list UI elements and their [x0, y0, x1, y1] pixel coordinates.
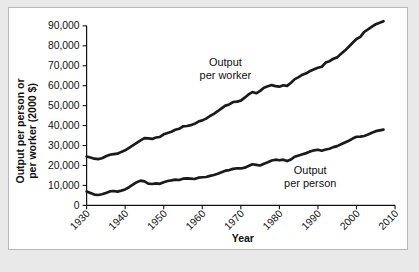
- x-tick-label: 1990: [299, 208, 323, 232]
- x-tick-label: 1970: [222, 208, 246, 232]
- x-tick-label: 1940: [106, 208, 130, 232]
- series-line-output-per-person: [87, 130, 384, 195]
- y-tick-label: 80,000: [48, 40, 80, 51]
- y-tick-label: 60,000: [48, 80, 80, 91]
- x-tick-label: 2010: [376, 208, 400, 232]
- series-annotation: Outputper person: [284, 164, 336, 189]
- x-tick-label: 1930: [68, 208, 92, 232]
- series-annotation: Outputper worker: [200, 56, 252, 81]
- y-tick-label: 0: [74, 200, 80, 211]
- y-tick-label: 10,000: [48, 180, 80, 191]
- y-tick-label: 70,000: [48, 60, 80, 71]
- x-tick-label: 1960: [184, 208, 208, 232]
- annotation-line2: per worker: [200, 69, 252, 81]
- x-tick-label: 1950: [145, 208, 169, 232]
- series-line-output-per-worker: [87, 21, 384, 159]
- chart-plot-area: 010,00020,00030,00040,00050,00060,00070,…: [9, 8, 407, 249]
- chart-annotations: Outputper workerOutputper person: [200, 56, 337, 190]
- y-tick-label: 30,000: [48, 140, 80, 151]
- y-axis-title: Output per person or per worker (2000 $): [14, 78, 38, 183]
- x-axis-ticks: 193019401950196019701980199020002010: [68, 205, 401, 232]
- x-axis-title: Year: [232, 232, 254, 244]
- annotation-line1: Output: [294, 164, 327, 176]
- chart-series-group: [87, 21, 384, 195]
- x-tick-label: 2000: [338, 208, 362, 232]
- x-tick-label: 1980: [261, 208, 285, 232]
- y-tick-label: 40,000: [48, 120, 80, 131]
- chart-axes: [87, 26, 395, 206]
- y-axis-title-line1: Output per person or: [14, 78, 26, 183]
- annotation-line1: Output: [209, 56, 242, 68]
- y-tick-label: 50,000: [48, 100, 80, 111]
- y-tick-label: 90,000: [48, 20, 80, 31]
- y-tick-label: 20,000: [48, 160, 80, 171]
- y-axis-ticks: 010,00020,00030,00040,00050,00060,00070,…: [48, 20, 87, 210]
- annotation-line2: per person: [284, 177, 336, 189]
- chart-figure: 010,00020,00030,00040,00050,00060,00070,…: [8, 7, 408, 250]
- y-axis-title-line2: per worker (2000 $): [26, 83, 38, 179]
